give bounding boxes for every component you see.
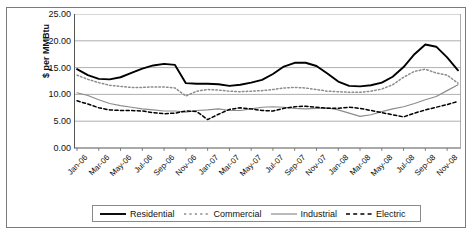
plot-area <box>74 14 461 148</box>
y-tick-5: 5.00 <box>35 116 71 126</box>
legend-label-residential: Residential <box>130 209 175 219</box>
gridlines <box>74 14 461 148</box>
legend-entry-electric: Electric <box>345 206 414 221</box>
y-tick-20: 20.00 <box>35 36 71 46</box>
legend-entry-residential: Residential <box>99 206 183 221</box>
series-line-electric <box>77 101 458 120</box>
y-tick-25: 25.00 <box>35 9 71 19</box>
series-line-commercial <box>77 69 458 96</box>
y-tick-10: 10.00 <box>35 89 71 99</box>
legend-label-commercial: Commercial <box>214 209 262 219</box>
legend-swatch-electric-icon <box>345 209 373 219</box>
legend-swatch-industrial-icon <box>270 209 298 219</box>
series-line-industrial <box>77 85 458 117</box>
legend-label-electric: Electric <box>376 209 406 219</box>
legend-swatch-commercial-icon <box>183 209 211 219</box>
legend-entry-commercial: Commercial <box>183 206 270 221</box>
y-tick-0: 0.00 <box>35 143 71 153</box>
y-axis-tick-labels: 0.00 5.00 10.00 15.00 20.00 25.00 <box>29 8 71 229</box>
y-tick-15: 15.00 <box>35 63 71 73</box>
series-line-residential <box>77 45 458 87</box>
chart-plot-svg <box>74 14 461 152</box>
legend-entry-industrial: Industrial <box>270 206 346 221</box>
x-axis-tick-labels: Jan-06Mar-06May-06Jul-06Sep-06Nov-06Jan-… <box>74 150 461 202</box>
legend-swatch-residential-icon <box>99 209 127 219</box>
chart-legend: ResidentialCommercialIndustrialElectric <box>92 205 421 222</box>
legend-label-industrial: Industrial <box>301 209 338 219</box>
chart-frame: $ per MMBtu 0.00 5.00 10.00 15.00 20.00 … <box>6 7 466 228</box>
